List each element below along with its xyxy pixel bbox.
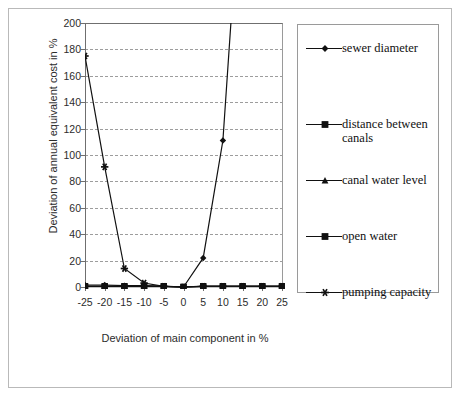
y-axis-tick-label: 160 [41, 71, 81, 81]
y-axis-tick-label: 200 [41, 18, 81, 28]
y-axis-tick [80, 76, 85, 77]
series-line [85, 56, 282, 287]
data-point-marker [220, 137, 226, 143]
legend-item[interactable]: sewer diameter [306, 41, 438, 56]
y-axis-tick-label: 80 [41, 176, 81, 186]
legend-marker-diamond-icon [306, 42, 342, 56]
legend-marker-square-icon [306, 118, 342, 132]
chart-legend: sewer diameterdistance between canalscan… [297, 24, 439, 293]
y-axis-tick-label: 120 [41, 124, 81, 134]
y-axis-tick-label: 140 [41, 97, 81, 107]
y-axis-tick [80, 155, 85, 156]
y-axis-tick [80, 129, 85, 130]
y-axis-tick-label: 20 [41, 256, 81, 266]
x-axis-title: Deviation of main component in % [40, 332, 330, 344]
y-axis-tick-label: 40 [41, 229, 81, 239]
legend-marker-square-icon [306, 230, 342, 244]
y-axis-tick [80, 208, 85, 209]
x-axis-tick-label: 25 [267, 296, 297, 308]
series-pumping-capacity [81, 53, 285, 290]
legend-item[interactable]: canal water level [306, 173, 438, 188]
x-axis-tick-labels: -25-20-15-10-50510152025 [85, 296, 283, 310]
y-axis-tick-labels: 020406080100120140160180200 [37, 23, 81, 287]
legend-item[interactable]: pumping capacity [306, 285, 438, 300]
data-series-layer [85, 23, 283, 287]
legend-item-label: canal water level [342, 173, 438, 187]
data-point-marker [121, 284, 127, 290]
y-axis-tick-label: 0 [41, 282, 81, 292]
y-axis-tick-label: 100 [41, 150, 81, 160]
legend-item-label: open water [342, 229, 438, 243]
legend-item[interactable]: open water [306, 229, 438, 244]
legend-marker-triangle-icon [306, 174, 342, 188]
y-axis-tick [80, 102, 85, 103]
y-axis-tick [80, 23, 85, 24]
series-line [85, 0, 282, 287]
legend-item-label: sewer diameter [342, 41, 438, 55]
legend-item-label: distance between canals [342, 117, 438, 145]
legend-item-label: pumping capacity [342, 285, 438, 299]
chart-figure: Deviation of annual equivalent cost in %… [0, 0, 459, 397]
series-sewer-diameter [82, 0, 282, 290]
plot-area-wrapper [85, 23, 283, 287]
legend-marker-star-icon [306, 286, 342, 300]
y-axis-tick [80, 234, 85, 235]
y-axis-tick [80, 49, 85, 50]
y-axis-tick [80, 181, 85, 182]
y-axis-tick-label: 60 [41, 203, 81, 213]
data-point-marker [102, 284, 108, 290]
y-axis-tick [80, 261, 85, 262]
legend-item[interactable]: distance between canals [306, 117, 438, 145]
y-axis-tick-label: 180 [41, 44, 81, 54]
